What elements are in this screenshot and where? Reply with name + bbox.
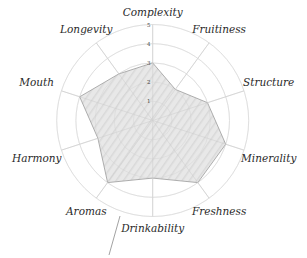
radial-tick-2: 2: [147, 79, 151, 85]
category-label-longevity: Longevity: [59, 23, 114, 35]
annotation-line: [109, 216, 120, 255]
category-label-complexity: Complexity: [123, 6, 184, 18]
category-label-harmony: Harmony: [11, 152, 62, 164]
category-label-mouth: Mouth: [18, 76, 54, 88]
radar-chart: 12345 ComplexityFruitinessStructureMiner…: [0, 0, 307, 258]
category-label-aromas: Aromas: [65, 205, 107, 217]
data-polygon: [57, 25, 249, 217]
category-label-fruitiness: Fruitiness: [191, 23, 246, 35]
radial-tick-1: 1: [147, 98, 151, 104]
category-label-drinkability: Drinkability: [120, 222, 185, 234]
radial-tick-4: 4: [147, 41, 151, 47]
category-label-structure: Structure: [243, 76, 294, 88]
radial-tick-5: 5: [147, 22, 151, 28]
radial-tick-3: 3: [147, 60, 151, 66]
category-label-minerality: Minerality: [240, 152, 297, 164]
category-label-freshness: Freshness: [191, 205, 247, 217]
